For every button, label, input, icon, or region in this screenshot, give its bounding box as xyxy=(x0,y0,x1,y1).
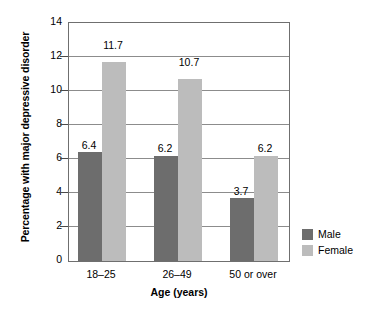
legend-item-female: Female xyxy=(302,242,353,258)
y-tick-label-0: 0 xyxy=(38,254,62,265)
value-label-female-50-or-over: 6.2 xyxy=(245,143,285,154)
y-tick-mark-10 xyxy=(60,90,68,91)
bar-male-18-25 xyxy=(78,152,102,261)
y-tick-mark-2 xyxy=(60,226,68,227)
legend: Male Female xyxy=(302,226,353,258)
y-tick-mark-6 xyxy=(60,158,68,159)
y-tick-label-10: 10 xyxy=(38,84,62,95)
x-axis-title: Age (years) xyxy=(68,286,290,298)
y-tick-label-2: 2 xyxy=(38,220,62,231)
y-tick-mark-12 xyxy=(60,56,68,57)
bar-female-50-or-over xyxy=(254,156,278,261)
bar-male-26-49 xyxy=(154,156,178,261)
bar-male-50-or-over xyxy=(230,198,254,261)
value-label-male-50-or-over: 3.7 xyxy=(221,186,261,197)
legend-label-male: Male xyxy=(318,228,341,240)
legend-label-female: Female xyxy=(318,244,353,256)
y-tick-label-8: 8 xyxy=(38,118,62,129)
legend-item-male: Male xyxy=(302,226,353,242)
value-label-male-26-49: 6.2 xyxy=(145,143,185,154)
y-tick-label-14: 14 xyxy=(38,16,62,27)
bar-chart: Percentage with major depressive disorde… xyxy=(0,0,370,313)
value-label-male-18-25: 6.4 xyxy=(69,140,109,151)
y-tick-mark-4 xyxy=(60,192,68,193)
value-label-female-26-49: 10.7 xyxy=(169,57,209,68)
x-category-label-50-or-over: 50 or over xyxy=(208,268,298,280)
y-axis-title: Percentage with major depressive disorde… xyxy=(18,2,32,272)
y-tick-mark-8 xyxy=(60,124,68,125)
legend-swatch-female-icon xyxy=(302,245,313,256)
y-tick-label-12: 12 xyxy=(38,50,62,61)
y-tick-label-4: 4 xyxy=(38,186,62,197)
bar-female-18-25 xyxy=(102,62,126,261)
bar-female-26-49 xyxy=(178,79,202,261)
legend-swatch-male-icon xyxy=(302,229,313,240)
value-label-female-18-25: 11.7 xyxy=(93,40,133,51)
y-tick-label-6: 6 xyxy=(38,152,62,163)
